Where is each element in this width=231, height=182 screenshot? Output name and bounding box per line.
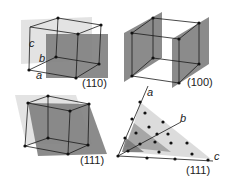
axis-label-b: b [180, 112, 186, 124]
miller-label-110: (110) [82, 77, 107, 89]
miller-label-111-lattice: (111) [186, 164, 210, 176]
axis-label-c: c [214, 150, 220, 162]
axis-label-c: c [29, 37, 35, 49]
crystal-planes-figure: c b a (110) (100) [0, 0, 231, 182]
axis-label-b: b [39, 52, 45, 64]
miller-label-111-cube: (111) [80, 154, 104, 166]
plane-100-left [124, 12, 162, 82]
axis-label-a: a [36, 69, 42, 81]
panel-100: (100) [124, 12, 213, 88]
panel-111-lattice: a b c (111) [116, 86, 220, 176]
plane-111 [28, 103, 107, 156]
miller-label-100: (100) [187, 76, 213, 88]
panel-111-cube: (111) [15, 94, 107, 166]
panel-110: c b a (110) [21, 16, 108, 89]
axis-label-a: a [147, 86, 153, 98]
